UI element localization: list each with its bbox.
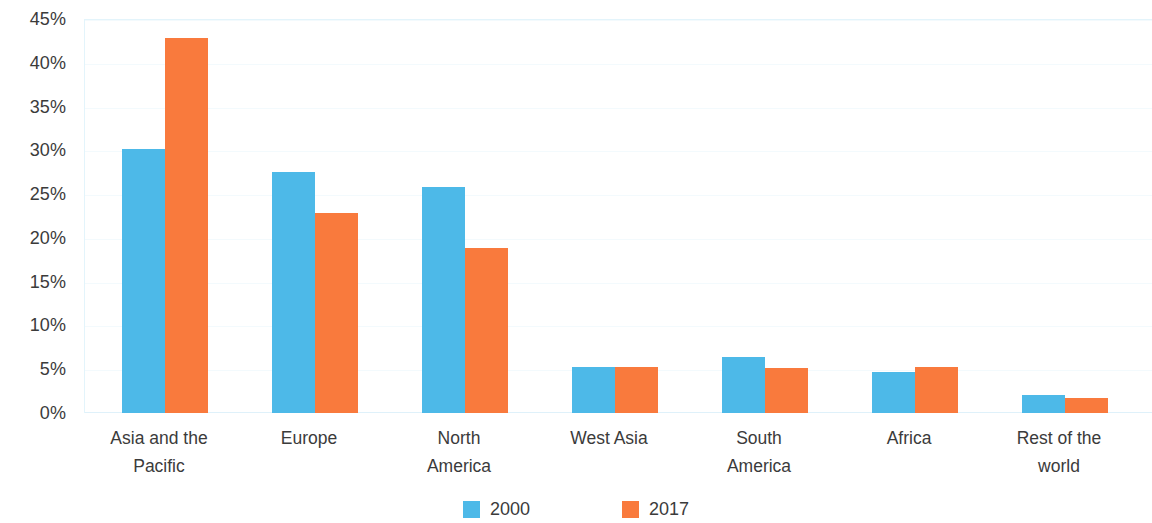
bar[interactable] <box>872 372 915 413</box>
bar-group <box>690 20 840 413</box>
chart-legend: 20002017 <box>0 495 1152 523</box>
x-axis-tick-label: Africa <box>834 424 984 452</box>
y-axis-tick-label: 45% <box>0 10 66 28</box>
y-axis-tick-label: 20% <box>0 229 66 247</box>
y-axis-tick-label: 30% <box>0 141 66 159</box>
x-axis-tick-label: Rest of the world <box>984 424 1134 480</box>
bar-chart: 0%5%10%15%20%25%30%35%40%45% Asia and th… <box>0 0 1152 523</box>
bar[interactable] <box>465 248 508 413</box>
y-axis-tick-label: 40% <box>0 54 66 72</box>
y-axis-tick-label: 25% <box>0 185 66 203</box>
bar[interactable] <box>915 367 958 413</box>
x-axis-tick-label: West Asia <box>534 424 684 452</box>
bar[interactable] <box>272 172 315 413</box>
legend-label: 2000 <box>490 500 530 518</box>
bar[interactable] <box>165 38 208 413</box>
bar-group <box>990 20 1140 413</box>
plot-area <box>84 19 1152 413</box>
x-axis-tick-label: Europe <box>234 424 384 452</box>
legend-item[interactable]: 2000 <box>463 500 530 518</box>
y-axis-tick-label: 35% <box>0 98 66 116</box>
bar[interactable] <box>422 187 465 413</box>
y-axis-tick-label: 15% <box>0 273 66 291</box>
y-axis-tick-label: 10% <box>0 316 66 334</box>
bar-group <box>540 20 690 413</box>
bar[interactable] <box>765 368 808 413</box>
legend-swatch-icon <box>622 501 639 518</box>
bar[interactable] <box>615 367 658 413</box>
x-axis-tick-label: Asia and the Pacific <box>84 424 234 480</box>
legend-swatch-icon <box>463 501 480 518</box>
bar-groups <box>85 20 1152 413</box>
bar[interactable] <box>122 149 165 413</box>
legend-item[interactable]: 2017 <box>622 500 689 518</box>
y-axis: 0%5%10%15%20%25%30%35%40%45% <box>0 0 76 420</box>
legend-label: 2017 <box>649 500 689 518</box>
x-axis-tick-label: North America <box>384 424 534 480</box>
bar-group <box>390 20 540 413</box>
bar[interactable] <box>722 357 765 413</box>
bar[interactable] <box>1065 398 1108 413</box>
x-axis-tick-label: South America <box>684 424 834 480</box>
x-axis-labels: Asia and the PacificEuropeNorth AmericaW… <box>84 424 1152 486</box>
bar-group <box>240 20 390 413</box>
bar[interactable] <box>315 213 358 413</box>
y-axis-tick-label: 5% <box>0 360 66 378</box>
y-axis-tick-label: 0% <box>0 404 66 422</box>
bar[interactable] <box>572 367 615 413</box>
bar-group <box>90 20 240 413</box>
bar[interactable] <box>1022 395 1065 413</box>
bar-group <box>840 20 990 413</box>
